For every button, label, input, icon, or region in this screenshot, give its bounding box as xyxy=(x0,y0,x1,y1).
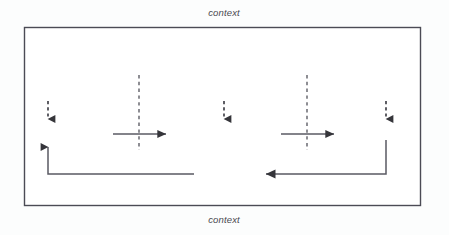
noise-right-label: noise xyxy=(295,152,318,163)
context-label-bottom: context xyxy=(208,214,240,225)
feedback-path-right xyxy=(266,140,386,174)
feedback-path-left xyxy=(48,147,194,174)
context-label-top: context xyxy=(208,7,240,18)
receiver-label: receiver xyxy=(369,127,404,138)
feedback-label: feedback xyxy=(204,168,244,179)
transmitter-label: transmitter xyxy=(25,127,72,138)
channel-label: channel xyxy=(207,92,241,103)
communication-model-diagram: context context coding transmitter perce… xyxy=(0,0,449,235)
perceptual-filters-left-label: perceptual filters xyxy=(103,63,175,74)
diagram-vector-layer xyxy=(0,0,449,235)
perceptual-filters-right-label: perceptual filters xyxy=(271,63,343,74)
coding-label: coding xyxy=(34,92,63,103)
message-label: message xyxy=(204,127,244,138)
decoding-label: decoding xyxy=(366,92,406,103)
noise-left-label: noise xyxy=(127,152,150,163)
